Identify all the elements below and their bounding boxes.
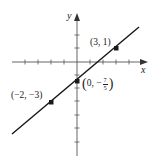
- point-neg2-neg3: [49, 100, 54, 105]
- fraction: 75: [103, 77, 108, 91]
- x-axis: [12, 59, 148, 65]
- point-label-text: 0, −: [87, 78, 102, 88]
- point-label-neg2-neg3: (−2, −3): [11, 91, 42, 101]
- y-axis-arrow-icon: [74, 13, 80, 21]
- point-label-0-neg7-5: (0, −75): [82, 77, 113, 91]
- y-axis-label: y: [67, 11, 71, 21]
- paren-close: ): [109, 76, 114, 91]
- point-0-neg7-5: [75, 79, 80, 84]
- x-axis-label: x: [141, 65, 145, 75]
- point-3-1: [114, 46, 119, 51]
- point-label-3-1: (3, 1): [90, 38, 111, 48]
- y-axis: [74, 13, 80, 156]
- coordinate-plot: [0, 0, 155, 161]
- fraction-denominator: 5: [103, 85, 108, 92]
